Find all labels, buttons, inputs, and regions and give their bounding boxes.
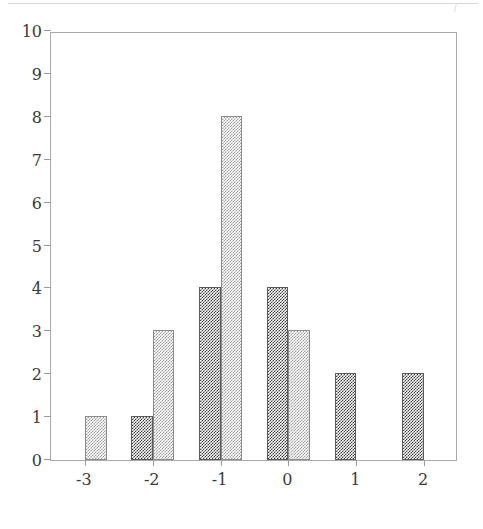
plot-area	[51, 33, 456, 460]
x-axis-tick	[85, 460, 86, 466]
y-axis-tick-label: 8	[12, 110, 42, 126]
y-axis-tick-label: 1	[12, 410, 42, 426]
x-axis-tick	[221, 460, 222, 466]
bar-light--2	[153, 330, 175, 460]
bar-light--1	[221, 116, 243, 460]
plot-frame	[50, 32, 457, 461]
scan-artifact-corner	[454, 3, 477, 12]
x-axis-tick	[288, 460, 289, 466]
y-axis-tick-label: 10	[12, 24, 42, 40]
bar-dark--1	[199, 287, 221, 460]
bar-light-0	[288, 330, 310, 460]
scan-artifact-line	[8, 3, 478, 4]
bar-dark--2	[131, 416, 153, 460]
x-axis-tick	[153, 460, 154, 466]
y-axis-tick	[44, 116, 51, 117]
y-axis-tick-label: 9	[12, 67, 42, 83]
x-axis-tick	[356, 460, 357, 466]
y-axis-tick	[44, 287, 51, 288]
y-axis-tick	[44, 30, 51, 31]
y-axis-tick	[44, 330, 51, 331]
bar-dark-0	[267, 287, 289, 460]
x-axis-tick-label: -1	[200, 472, 240, 488]
y-axis-tick	[44, 459, 51, 460]
y-axis-tick	[44, 73, 51, 74]
y-axis-tick-label: 6	[12, 196, 42, 212]
x-axis-tick-label: 0	[267, 472, 307, 488]
x-axis-tick-label: -3	[64, 472, 104, 488]
y-axis-tick-label: 5	[12, 239, 42, 255]
bar-light--3	[85, 416, 107, 460]
y-axis-tick-label: 2	[12, 367, 42, 383]
y-axis-tick	[44, 416, 51, 417]
x-axis-tick-label: 2	[403, 472, 443, 488]
bar-dark-2	[402, 373, 424, 460]
y-axis-tick	[44, 159, 51, 160]
y-axis-tick-label: 3	[12, 324, 42, 340]
y-axis-tick	[44, 202, 51, 203]
y-axis-tick	[44, 373, 51, 374]
x-axis-tick-label: 1	[335, 472, 375, 488]
x-axis-tick	[424, 460, 425, 466]
y-axis-tick-label: 7	[12, 153, 42, 169]
bar-dark-1	[335, 373, 357, 460]
y-axis-tick-label: 4	[12, 281, 42, 297]
chart-figure: 012345678910 -3-2-1012	[0, 0, 483, 529]
x-axis-tick-label: -2	[132, 472, 172, 488]
y-axis-tick	[44, 245, 51, 246]
y-axis-tick-label: 0	[12, 453, 42, 469]
